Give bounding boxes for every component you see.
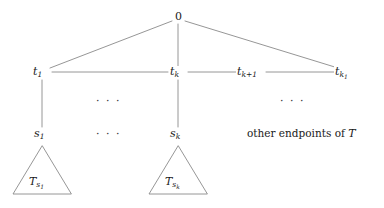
node-t1-label: t1 bbox=[32, 66, 43, 79]
edge-root-t1 bbox=[50, 21, 172, 68]
node-tk-sub1-label: tk1 bbox=[334, 66, 349, 80]
triangle-sk-subscript: sk bbox=[172, 180, 180, 189]
node-t1-subscript: 1 bbox=[37, 70, 42, 79]
node-tk-subscript: k bbox=[174, 70, 179, 79]
other-endpoints-caption: other endpoints of T bbox=[247, 127, 356, 140]
node-tk-sub1-subscript: k1 bbox=[339, 70, 347, 79]
node-tk-plus-1-subscript: k+1 bbox=[241, 70, 257, 79]
diagram-canvas bbox=[0, 0, 384, 208]
node-tk-label: tk bbox=[169, 66, 180, 79]
script-T-symbol: T bbox=[348, 127, 355, 140]
ellipsis-lower-left: · · · bbox=[96, 128, 121, 141]
triangle-sk-label: Tsk bbox=[165, 175, 180, 190]
ellipsis-upper-right: · · · bbox=[280, 95, 305, 108]
node-s1-label: s1 bbox=[33, 128, 45, 141]
node-root-label: 0 bbox=[174, 11, 183, 22]
node-sk-subscript: k bbox=[176, 132, 181, 141]
node-tk-plus-1-label: tk+1 bbox=[236, 66, 258, 79]
triangle-s1-label: Ts1 bbox=[29, 175, 44, 190]
node-sk-label: sk bbox=[169, 128, 181, 141]
edge-root-tk1 bbox=[185, 21, 338, 68]
triangle-sk-nested-subscript: k bbox=[176, 183, 180, 190]
triangle-s1-subscript: s1 bbox=[36, 180, 44, 189]
node-tk-sub1-nested-subscript: 1 bbox=[344, 73, 348, 80]
tree-diagram: 0 t1 tk tk+1 tk1 s1 sk · · · · · · · · ·… bbox=[0, 0, 384, 208]
ellipsis-upper-left: · · · bbox=[96, 95, 121, 108]
node-s1-subscript: 1 bbox=[40, 132, 45, 141]
other-endpoints-text: other endpoints of bbox=[247, 127, 345, 139]
triangle-s1-nested-subscript: 1 bbox=[40, 183, 44, 190]
